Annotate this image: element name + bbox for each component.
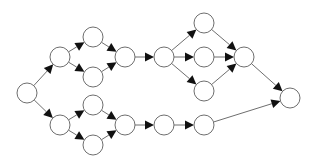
- arrowhead-icon: [74, 110, 84, 119]
- edge-n7-n9: [214, 53, 234, 62]
- arrowhead-icon: [225, 53, 234, 62]
- graph-node-n2: [83, 27, 103, 47]
- edge-line: [69, 47, 77, 52]
- graph-node-n6: [194, 13, 214, 33]
- edge-line: [172, 63, 190, 78]
- arrowhead-icon: [187, 75, 197, 84]
- edge-line: [34, 71, 47, 86]
- edge-line: [212, 29, 230, 44]
- edge-line: [101, 67, 108, 72]
- arrowhead-icon: [271, 99, 281, 108]
- graph-node-n16: [194, 115, 214, 135]
- edge-n0-n11: [34, 100, 53, 118]
- edge-line: [69, 62, 77, 67]
- edge-n3-n4: [101, 62, 116, 71]
- edge-n6-n9: [212, 29, 237, 50]
- edge-n5-n7: [174, 53, 194, 62]
- edge-line: [214, 104, 272, 122]
- edge-n14-n15: [135, 121, 154, 130]
- graph-node-n9: [234, 47, 254, 67]
- arrowhead-icon: [145, 53, 154, 62]
- graph-node-n1: [50, 47, 70, 67]
- arrowhead-icon: [227, 41, 237, 50]
- graph-canvas: [0, 0, 316, 158]
- edge-n5-n8: [172, 63, 197, 84]
- edge-line: [69, 130, 77, 135]
- arrowhead-icon: [74, 63, 84, 72]
- arrowhead-icon: [74, 131, 84, 140]
- arrowhead-icon: [185, 53, 194, 62]
- edge-n11-n12: [69, 110, 85, 120]
- edge-line: [251, 64, 275, 86]
- graph-node-n15: [154, 115, 174, 135]
- arrowhead-icon: [107, 111, 117, 120]
- edge-line: [34, 100, 46, 112]
- edge-n16-n10: [214, 99, 281, 122]
- edge-n13-n14: [101, 130, 116, 139]
- edge-n8-n9: [212, 63, 237, 84]
- arrowhead-icon: [107, 130, 117, 139]
- graph-node-n8: [194, 81, 214, 101]
- arrowhead-icon: [185, 121, 194, 130]
- graph-node-n0: [17, 83, 37, 103]
- graph-node-n12: [83, 95, 103, 115]
- graph-node-n13: [83, 135, 103, 155]
- edge-n11-n13: [69, 130, 85, 140]
- arrowhead-icon: [74, 42, 84, 51]
- edge-line: [212, 69, 230, 84]
- arrowhead-icon: [227, 63, 237, 72]
- graph-node-n5: [154, 47, 174, 67]
- edge-n0-n1: [34, 64, 53, 85]
- arrowhead-icon: [187, 29, 197, 38]
- graph-node-n14: [115, 115, 135, 135]
- edge-n1-n2: [69, 42, 85, 52]
- edge-line: [101, 42, 108, 47]
- edge-n12-n14: [101, 110, 116, 119]
- edge-line: [101, 110, 108, 115]
- edge-n2-n4: [101, 42, 116, 51]
- arrowhead-icon: [107, 43, 117, 52]
- edge-line: [172, 35, 190, 50]
- edge-line: [101, 135, 108, 140]
- graph-node-n10: [280, 88, 300, 108]
- node-layer: [17, 13, 300, 155]
- edge-n9-n10: [251, 64, 282, 92]
- graph-node-n7: [194, 47, 214, 67]
- edge-line: [69, 115, 77, 120]
- edge-n5-n6: [172, 29, 197, 50]
- graph-node-n11: [50, 115, 70, 135]
- arrowhead-icon: [145, 121, 154, 130]
- graph-node-n4: [115, 47, 135, 67]
- edge-n1-n3: [69, 62, 85, 72]
- edge-n4-n5: [135, 53, 154, 62]
- edge-n15-n16: [174, 121, 194, 130]
- graph-node-n3: [83, 67, 103, 87]
- directed-graph: [0, 0, 316, 158]
- arrowhead-icon: [107, 62, 117, 71]
